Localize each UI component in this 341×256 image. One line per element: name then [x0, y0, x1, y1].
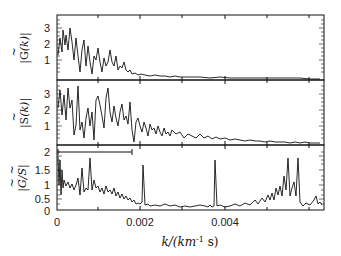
- svg-text:1: 1: [44, 120, 50, 132]
- svg-text:1.5: 1.5: [35, 164, 50, 176]
- panel-top: [57, 15, 324, 80]
- bot-y-tick-labels: 2 1.5 1 0.5 0: [35, 146, 50, 217]
- svg-text:0.002: 0.002: [126, 216, 154, 228]
- svg-text:0: 0: [54, 216, 60, 228]
- x-major-ticks: [98, 15, 309, 210]
- svg-text:2: 2: [44, 104, 50, 116]
- svg-text:3: 3: [44, 22, 50, 34]
- range-bar-annotation: [58, 149, 132, 155]
- series-S: [58, 86, 320, 143]
- svg-text:1: 1: [44, 179, 50, 191]
- svg-text:0.004: 0.004: [211, 216, 239, 228]
- series-ratio: [58, 156, 322, 207]
- svg-text:3: 3: [44, 88, 50, 100]
- chart-figure: 3 2 1 3 2 1 2 1.5 1 0.5 0 0 0.002 0.004 …: [0, 0, 341, 256]
- top-y-axis-title: |G(k)| ~: [8, 32, 32, 63]
- svg-text:~: ~: [6, 178, 19, 187]
- svg-text:~: ~: [8, 47, 21, 56]
- x-axis-title: k/(km-1 s): [161, 235, 218, 249]
- top-y-tick-labels: 3 2 1: [44, 22, 50, 66]
- svg-text:0: 0: [44, 205, 50, 217]
- series-G: [58, 28, 320, 79]
- mid-y-axis-title: |S(k)| ~: [8, 98, 32, 128]
- svg-text:1: 1: [44, 54, 50, 66]
- mid-y-tick-labels: 3 2 1: [44, 88, 50, 132]
- svg-text:0.5: 0.5: [35, 193, 50, 205]
- svg-text:~: ~: [6, 165, 19, 174]
- svg-text:2: 2: [44, 146, 50, 158]
- svg-text:2: 2: [44, 38, 50, 50]
- bot-y-axis-title: |G/S| ~ ~: [6, 164, 30, 191]
- x-tick-labels: 0 0.002 0.004: [54, 216, 239, 228]
- svg-text:~: ~: [8, 112, 21, 121]
